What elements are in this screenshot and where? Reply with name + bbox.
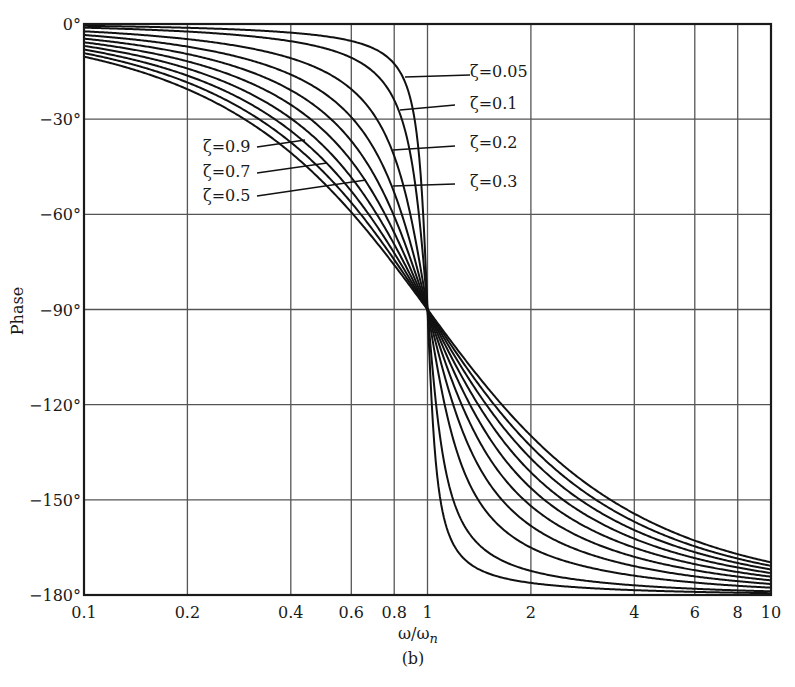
y-tick-label: −150° [29,491,81,510]
x-tick-label: 6 [690,603,700,622]
x-tick-label: 4 [629,603,639,622]
damping-label: ζ=0.9 [203,137,251,156]
annotation-leader-line [257,163,327,173]
x-tick-label: 8 [733,603,743,622]
damping-label: ζ=0.5 [203,186,251,205]
y-tick-label: −120° [29,396,81,415]
x-axis-title-main: ω/ω [398,624,429,643]
y-tick-label: −30° [39,110,81,129]
y-axis-title: Phase [8,287,27,335]
x-tick-labels: 0.10.20.40.60.81246810 [71,603,781,622]
x-tick-label: 0.2 [175,603,200,622]
figure-caption: (b) [402,649,425,668]
x-tick-label: 2 [526,603,536,622]
annotation-leader-line [393,146,455,150]
damping-label: ζ=0.7 [203,162,251,181]
x-tick-label: 0.4 [278,603,303,622]
damping-label: ζ=0.2 [470,133,518,152]
x-tick-label: 0.6 [339,603,364,622]
phase-plot: ζ=0.05ζ=0.1ζ=0.2ζ=0.3ζ=0.9ζ=0.7ζ=0.5 0°−… [0,0,795,687]
y-tick-label: 0° [63,15,81,34]
x-tick-label: 10 [761,603,781,622]
damping-label: ζ=0.05 [470,62,528,81]
y-tick-label: −60° [39,205,81,224]
y-tick-label: −90° [39,301,81,320]
x-tick-label: 1 [422,603,432,622]
x-axis-title-subscript: n [429,631,437,646]
damping-label: ζ=0.1 [470,94,518,113]
x-tick-label: 0.8 [381,603,406,622]
x-axis-title: ω/ωn [398,624,438,646]
damping-label: ζ=0.3 [470,172,518,191]
annotation-leader-line [405,75,470,77]
x-tick-label: 0.1 [71,603,96,622]
y-tick-labels: 0°−30°−60°−90°−120°−150°−180° [29,15,81,605]
